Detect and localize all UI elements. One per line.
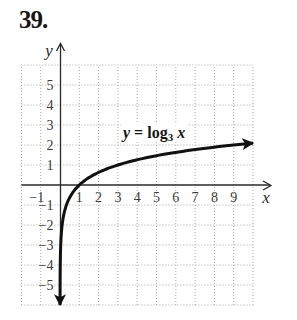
x-tick-label: 9 — [230, 190, 237, 205]
curve-equation-label: y = log3 x — [121, 124, 187, 142]
y-tick-label: −2 — [39, 218, 54, 233]
x-tick-label: 6 — [172, 190, 179, 205]
x-tick-label: 1 — [76, 190, 83, 205]
x-tick-label: 3 — [114, 190, 121, 205]
equation-equals: = — [130, 124, 147, 141]
y-tick-label: 1 — [47, 158, 54, 173]
x-tick-label: 5 — [153, 190, 160, 205]
x-tick-label: 7 — [192, 190, 199, 205]
equation-func: log — [147, 124, 167, 141]
equation-arg: x — [177, 124, 185, 141]
y-tick-label: 4 — [47, 98, 54, 113]
y-tick-label: 2 — [47, 138, 54, 153]
y-tick-label: 3 — [47, 118, 54, 133]
y-tick-label: −3 — [39, 238, 54, 253]
exercise-page: 39. −1123456789−5−4−3−2−112345 x y y = l… — [0, 0, 297, 320]
y-tick-label: −4 — [39, 258, 54, 273]
y-axis-label: y — [43, 41, 53, 60]
y-tick-label: −1 — [39, 198, 54, 213]
y-tick-label: −5 — [39, 278, 54, 293]
x-tick-label: 8 — [211, 190, 218, 205]
x-tick-label: 2 — [95, 190, 102, 205]
x-axis-label: x — [261, 188, 270, 207]
y-tick-label: 5 — [47, 78, 54, 93]
graph: −1123456789−5−4−3−2−112345 x y — [0, 0, 297, 320]
x-tick-label: 4 — [134, 190, 141, 205]
